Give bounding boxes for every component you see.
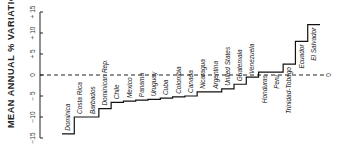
category-label: Mexico <box>126 77 133 98</box>
data-point <box>185 95 197 97</box>
data-point <box>123 100 135 102</box>
category-label: Guatemala <box>236 49 243 81</box>
data-point <box>136 99 148 101</box>
category-label: Barbados <box>89 85 96 114</box>
category-label: Nicaragua <box>199 59 207 89</box>
category-label: Chile <box>113 84 120 99</box>
data-point <box>234 83 246 85</box>
data-point <box>173 96 185 98</box>
y-axis-ticks: −15−10− 50+ 5+ 10+ 15 <box>29 5 43 143</box>
data-point <box>62 133 74 135</box>
zero-line-label: 0 <box>325 73 332 77</box>
y-tick-label: + 10 <box>29 26 36 39</box>
category-label: Dominica <box>64 103 71 130</box>
data-point <box>99 108 111 110</box>
category-label: Cuba <box>162 79 169 95</box>
category-label: Venezuela <box>248 43 255 74</box>
category-label: Canada <box>187 70 194 93</box>
data-point <box>246 76 258 78</box>
category-label: United States <box>224 46 231 86</box>
category-label: Colombia <box>175 66 182 94</box>
y-tick-label: −10 <box>29 111 36 122</box>
category-label: Costa Rica <box>76 82 83 114</box>
y-tick-label: + 15 <box>29 5 36 18</box>
category-label: Honduras <box>261 74 268 103</box>
category-labels: DominicaCosta RicaBarbadosDominican Rep.… <box>64 27 317 131</box>
data-point <box>259 71 271 73</box>
data-point <box>222 88 234 90</box>
y-tick-label: + 5 <box>29 49 36 59</box>
data-point <box>111 101 123 103</box>
data-point <box>295 40 307 42</box>
chart: MEAN ANNUAL % VARIATION −15−10− 50+ 5+ 1… <box>0 0 350 151</box>
y-axis-title: MEAN ANNUAL % VARIATION <box>6 0 16 128</box>
data-point <box>209 91 221 93</box>
data-point <box>160 97 172 99</box>
data-point <box>271 71 283 73</box>
category-label: Panama <box>138 73 145 98</box>
category-label: Trinidad-Tobago <box>285 67 293 114</box>
category-label: Dominican Rep. <box>101 59 109 105</box>
data-point <box>74 116 86 118</box>
data-point <box>283 63 295 65</box>
category-label: Uruguay <box>150 71 158 96</box>
category-label: Ecuador <box>298 44 305 69</box>
y-tick-label: 0 <box>29 73 36 77</box>
data-point <box>87 116 99 118</box>
data-point <box>148 98 160 100</box>
y-tick-label: − 5 <box>29 91 36 101</box>
data-point <box>308 24 320 26</box>
category-label: El Salvador <box>310 27 317 61</box>
category-label: Argentina <box>212 61 220 90</box>
y-tick-label: −15 <box>29 132 36 143</box>
category-label: Peru <box>273 75 280 89</box>
data-point <box>197 91 209 93</box>
